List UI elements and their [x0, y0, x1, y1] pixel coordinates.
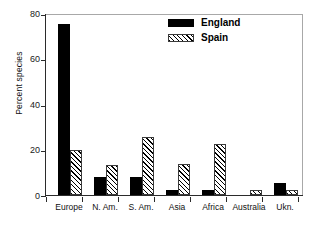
legend-label-england: England	[201, 18, 240, 28]
y-tick-label-20: 20	[30, 146, 40, 155]
x-axis-line	[45, 195, 303, 196]
bar-england-europe	[58, 24, 70, 195]
y-axis-title: Percent species	[14, 23, 24, 143]
bar-england-ukn	[274, 183, 286, 196]
solid-black-swatch-icon	[168, 19, 194, 27]
bar-spain-africa	[214, 144, 226, 195]
y-tick-label-40: 40	[30, 101, 40, 110]
legend-entry-spain: Spain	[168, 31, 268, 44]
x-axis-tick-labels: Europe N. Am. S. Am. Asia Africa Austral…	[45, 202, 303, 218]
hatched-swatch-icon	[168, 34, 194, 42]
bar-spain-europe	[70, 150, 82, 196]
x-tick-label-ukn: Ukn.	[255, 202, 313, 212]
bar-spain-asia	[178, 164, 190, 195]
bar-chart-figure: 80 60 40 20 0 Percent species	[0, 0, 313, 227]
legend-entry-england: England	[168, 16, 268, 29]
y-axis-line	[45, 14, 46, 196]
legend-label-spain: Spain	[201, 33, 228, 43]
bar-spain-n-am	[106, 165, 118, 195]
bar-spain-s-am	[142, 137, 154, 195]
bar-england-s-am	[130, 177, 142, 195]
y-tick-label-60: 60	[30, 55, 40, 64]
bar-england-n-am	[94, 177, 106, 195]
y-tick-label-0: 0	[35, 192, 40, 201]
chart-legend: England Spain	[168, 16, 268, 46]
y-tick-label-80: 80	[30, 10, 40, 19]
